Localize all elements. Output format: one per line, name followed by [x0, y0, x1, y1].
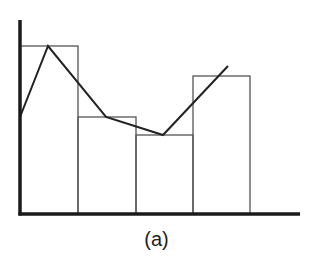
figure-caption: (a) [0, 228, 313, 251]
frequency-polygon-line [20, 46, 228, 135]
histogram-bar-3 [136, 135, 193, 214]
histogram-chart [0, 0, 313, 262]
histogram-bar-2 [78, 117, 136, 214]
histogram-bars [20, 46, 250, 214]
histogram-bar-4 [193, 76, 250, 214]
